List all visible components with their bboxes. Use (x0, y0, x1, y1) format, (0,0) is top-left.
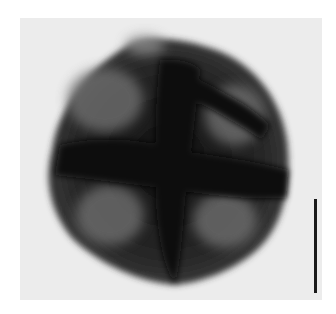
scale-bar (314, 199, 317, 293)
pollen-grain (0, 0, 336, 314)
